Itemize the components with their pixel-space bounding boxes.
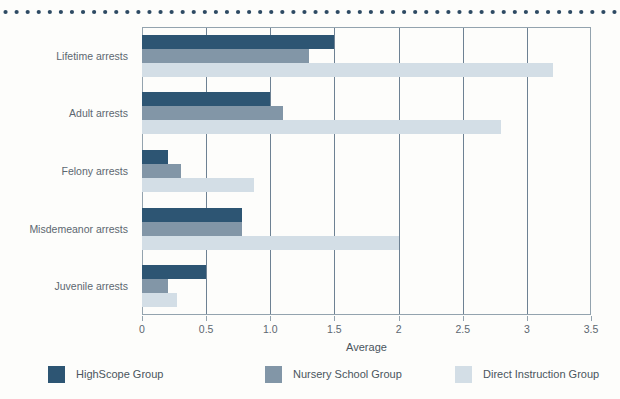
x-tick-label: 3.5 <box>584 323 599 335</box>
y-axis-label: Adult arrests <box>0 107 128 119</box>
bar <box>142 164 181 178</box>
x-tick-label: 2 <box>396 323 402 335</box>
y-axis-category-labels: Lifetime arrestsAdult arrestsFelony arre… <box>0 27 136 315</box>
x-tick-label: 0.5 <box>199 323 214 335</box>
x-tick-label: 3 <box>524 323 530 335</box>
bar <box>142 293 177 307</box>
bar <box>142 35 334 49</box>
bar <box>142 120 501 134</box>
legend-label: Nursery School Group <box>293 368 402 380</box>
y-axis-label: Misdemeanor arrests <box>0 223 128 235</box>
bar-group <box>142 92 591 134</box>
legend-label: HighScope Group <box>76 368 163 380</box>
x-axis-title: Average <box>142 341 591 353</box>
bar <box>142 106 283 120</box>
x-tick-label: 1.0 <box>263 323 278 335</box>
legend-swatch-icon <box>265 366 282 383</box>
x-tick-mark <box>527 316 528 321</box>
bar <box>142 92 270 106</box>
chart-legend: HighScope GroupNursery School GroupDirec… <box>0 364 620 388</box>
x-tick-mark <box>142 316 143 321</box>
bar <box>142 178 254 192</box>
bar-group <box>142 150 591 192</box>
x-tick-mark <box>270 316 271 321</box>
y-axis-label: Juvenile arrests <box>0 280 128 292</box>
bar <box>142 63 553 77</box>
bar <box>142 208 242 222</box>
x-tick-mark <box>206 316 207 321</box>
x-tick-mark <box>463 316 464 321</box>
bar-group <box>142 35 591 77</box>
bar <box>142 265 206 279</box>
bar <box>142 150 168 164</box>
x-tick-mark <box>334 316 335 321</box>
bar <box>142 236 399 250</box>
chart-page: Lifetime arrestsAdult arrestsFelony arre… <box>0 0 620 399</box>
x-tick-label: 2.5 <box>455 323 470 335</box>
x-tick-mark <box>591 316 592 321</box>
legend-label: Direct Instruction Group <box>483 368 599 380</box>
legend-item[interactable]: HighScope Group <box>48 364 163 384</box>
x-tick-label: 0 <box>139 323 145 335</box>
legend-swatch-icon <box>48 366 65 383</box>
legend-item[interactable]: Nursery School Group <box>265 364 402 384</box>
y-axis-label: Lifetime arrests <box>0 50 128 62</box>
y-axis-label: Felony arrests <box>0 165 128 177</box>
x-axis-ticks: 00.51.01.522.533.5 <box>142 316 591 338</box>
legend-item[interactable]: Direct Instruction Group <box>455 364 599 384</box>
bar <box>142 222 242 236</box>
bar <box>142 279 168 293</box>
bar-group <box>142 208 591 250</box>
bar-group <box>142 265 591 307</box>
x-tick-mark <box>399 316 400 321</box>
dotted-rule-decoration <box>0 9 620 15</box>
legend-swatch-icon <box>455 366 472 383</box>
bar <box>142 49 309 63</box>
x-tick-label: 1.5 <box>327 323 342 335</box>
bars-layer <box>142 27 591 315</box>
